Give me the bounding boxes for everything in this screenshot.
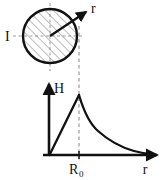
figure-canvas: I r H r R 0	[0, 0, 164, 180]
r-axis-label: r	[143, 162, 148, 177]
curve-outside-hyperbolic	[79, 95, 154, 154]
h-axis-label: H	[54, 81, 64, 96]
field-curve	[50, 95, 155, 155]
r0-label-subscript: 0	[79, 169, 84, 179]
current-label: I	[5, 29, 10, 44]
radius-vector-label: r	[91, 1, 96, 16]
physics-figure: I r H r R 0	[0, 0, 164, 180]
r0-label-base: R	[69, 162, 79, 177]
curve-inside-linear	[50, 95, 80, 155]
conductor-cross-section	[13, 3, 86, 71]
